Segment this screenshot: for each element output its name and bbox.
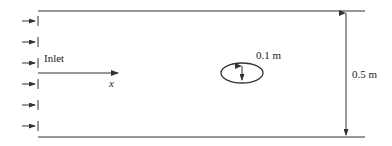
inlet-arrow-icon [22, 37, 38, 47]
inlet-arrows [22, 16, 38, 131]
inlet-arrow-icon [22, 121, 38, 131]
x-axis-label: x [108, 77, 114, 89]
inlet-label: Inlet [44, 52, 64, 64]
channel-height-label: 0.5 m [352, 68, 378, 80]
inlet-arrow-icon [22, 100, 38, 110]
inlet-arrow-icon [22, 16, 38, 26]
obstacle-dimension-label: 0.1 m [256, 49, 282, 61]
inlet-arrow-icon [22, 58, 38, 68]
inlet-arrow-icon [22, 79, 38, 89]
flow-diagram: Inlet x 0.1 m 0.5 m [0, 0, 392, 146]
